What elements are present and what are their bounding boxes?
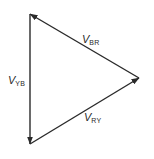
label-v-yb: VYB bbox=[8, 75, 25, 86]
phasor-v-br-arrow bbox=[30, 14, 139, 78]
label-v-ry-subscript: RY bbox=[91, 117, 101, 124]
label-v-yb-subscript: YB bbox=[15, 80, 25, 87]
label-v-br-subscript: BR bbox=[89, 39, 99, 46]
label-v-ry: VRY bbox=[84, 112, 102, 123]
label-v-br: VBR bbox=[82, 34, 100, 45]
